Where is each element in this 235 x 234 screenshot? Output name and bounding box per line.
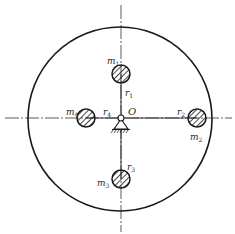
- label-r1: r1: [125, 88, 133, 99]
- label-m3: m3: [97, 178, 110, 189]
- mass-m3: [112, 170, 130, 188]
- label-r2: r2: [177, 107, 185, 118]
- rotor-diagram: O m1 r1 r2 m2 r3 m3 m4 r4: [0, 0, 235, 234]
- label-r3: r3: [127, 162, 135, 173]
- mass-m1: [112, 65, 130, 83]
- mass-m2: [188, 109, 206, 127]
- label-m4: m4: [66, 107, 79, 118]
- pivot-label: O: [128, 106, 136, 117]
- label-m2: m2: [190, 132, 203, 143]
- mass-m4: [77, 109, 95, 127]
- label-m1: m1: [107, 56, 119, 67]
- label-r4: r4: [103, 107, 111, 118]
